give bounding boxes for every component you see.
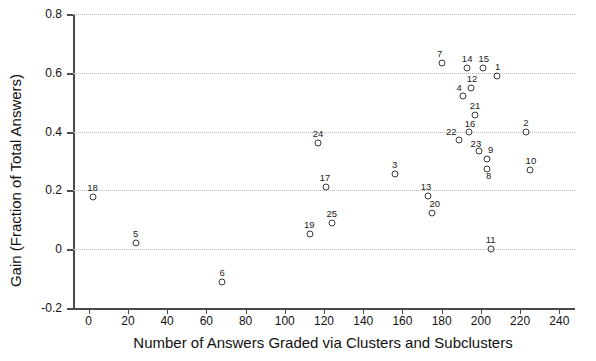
data-point-label: 10: [526, 155, 537, 165]
data-point-label: 5: [133, 228, 138, 238]
gridline-y: [73, 249, 575, 250]
data-point-marker: [428, 210, 435, 217]
y-tick-label: 0.8: [0, 7, 62, 21]
data-point-marker: [487, 246, 494, 253]
gridline-y: [73, 132, 575, 133]
data-point-label: 16: [465, 118, 476, 128]
data-point-marker: [132, 239, 139, 246]
x-tick-label: 220: [510, 314, 530, 328]
data-point-label: 23: [471, 139, 482, 149]
data-point-marker: [466, 128, 473, 135]
x-tick-label: 80: [239, 314, 252, 328]
data-point-marker: [456, 137, 463, 144]
data-point-marker: [464, 64, 471, 71]
data-point-marker: [322, 183, 329, 190]
data-point-marker: [483, 155, 490, 162]
x-tick-label: 100: [275, 314, 295, 328]
data-point-marker: [479, 64, 486, 71]
data-point-label: 20: [430, 199, 441, 209]
x-tick-label: 200: [471, 314, 491, 328]
data-point-label: 21: [470, 101, 481, 111]
x-tick-label: 40: [160, 314, 173, 328]
data-point-marker: [438, 59, 445, 66]
data-point-label: 3: [392, 159, 397, 169]
x-tick-label: 140: [353, 314, 373, 328]
data-point-label: 4: [457, 83, 462, 93]
data-point-label: 25: [327, 208, 338, 218]
x-tick-label: 240: [549, 314, 569, 328]
data-point-marker: [307, 230, 314, 237]
y-tick-label: 0.2: [0, 183, 62, 197]
data-point-marker: [219, 279, 226, 286]
data-point-label: 14: [462, 53, 473, 63]
data-point-label: 12: [467, 74, 478, 84]
data-point-marker: [460, 93, 467, 100]
x-tick-label: 120: [314, 314, 334, 328]
data-point-label: 7: [437, 48, 442, 58]
data-point-label: 1: [495, 61, 500, 71]
data-point-label: 8: [486, 171, 491, 181]
data-point-marker: [391, 170, 398, 177]
data-point-marker: [468, 85, 475, 92]
x-axis-title: Number of Answers Graded via Clusters an…: [73, 334, 573, 351]
data-point-label: 19: [304, 219, 315, 229]
y-tick-label: -0.2: [0, 301, 62, 315]
data-point-marker: [493, 72, 500, 79]
data-point-marker: [526, 166, 533, 173]
x-tick-label: 180: [432, 314, 452, 328]
data-point-marker: [471, 112, 478, 119]
scatter-chart-figure: Gain (Fraction of Total Answers) Number …: [0, 0, 596, 361]
data-point-marker: [475, 148, 482, 155]
data-point-label: 17: [320, 172, 331, 182]
gridline-y: [73, 190, 575, 191]
data-point-label: 11: [486, 235, 496, 245]
data-point-label: 15: [479, 53, 490, 63]
data-point-marker: [522, 129, 529, 136]
data-point-marker: [89, 193, 96, 200]
x-tick-label: 160: [392, 314, 412, 328]
data-point-marker: [315, 140, 322, 147]
data-point-marker: [328, 219, 335, 226]
data-point-label: 22: [446, 127, 457, 137]
data-point-label: 2: [523, 118, 528, 128]
x-tick-label: 0: [85, 314, 92, 328]
plot-area: 1856192425173132072241416122123159811121…: [73, 14, 575, 308]
gridline-y: [73, 14, 575, 15]
data-point-label: 13: [421, 182, 432, 192]
x-tick-label: 20: [121, 314, 134, 328]
data-point-label: 24: [313, 129, 324, 139]
x-tick-label: 60: [200, 314, 213, 328]
data-point-label: 6: [219, 268, 224, 278]
y-tick-label: 0.6: [0, 66, 62, 80]
y-tick-mark: [67, 308, 73, 310]
y-tick-label: 0: [0, 242, 62, 256]
y-tick-label: 0.4: [0, 125, 62, 139]
data-point-label: 18: [87, 182, 98, 192]
data-point-label: 9: [488, 144, 493, 154]
